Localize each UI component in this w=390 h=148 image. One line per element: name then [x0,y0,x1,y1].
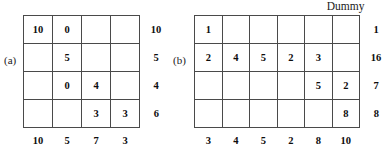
panel-a-caption: (a) [4,55,16,66]
tableau-cell[interactable] [111,16,140,44]
tableau-b: 112452316527883452810 [194,15,387,147]
tableau-cell[interactable]: 3 [305,44,333,72]
tableau-cell[interactable] [250,100,278,128]
tableau-row: 10010 [24,16,167,44]
tableau-cell[interactable]: 8 [332,100,360,128]
column-demand-label: 5 [250,128,278,148]
tableau-cell[interactable]: 4 [82,72,111,100]
tableau-row: 336 [24,100,167,128]
tableau-cell[interactable] [222,72,250,100]
tableau-cell[interactable]: 3 [111,100,140,128]
tableau-cell[interactable] [111,72,140,100]
tableau-cell[interactable]: 1 [195,16,223,44]
row-supply-label: 16 [360,44,387,72]
tableau-cell[interactable] [250,72,278,100]
tableau-cell[interactable] [53,100,82,128]
tableau-cell[interactable] [24,100,53,128]
tableau-b-body: 112452316527883452810 [195,16,387,148]
row-supply-label: 7 [360,72,387,100]
column-demand-label: 4 [222,128,250,148]
tableau-cell[interactable]: 2 [277,44,305,72]
tableau-cell[interactable]: 0 [53,72,82,100]
transportation-tableau-figure: (a) 100105504433610573 (b) Dummy 1124523… [0,0,390,147]
tableau-cell[interactable]: 5 [53,44,82,72]
tableau-cell[interactable]: 5 [305,72,333,100]
tableau-cell[interactable]: 3 [82,100,111,128]
column-demand-label: 3 [111,128,140,148]
tableau-cell[interactable] [305,16,333,44]
tableau-cell[interactable] [195,72,223,100]
column-demand-label: 8 [305,128,333,148]
panel-b: (b) Dummy 112452316527883452810 [195,0,390,147]
tableau-cell[interactable] [277,72,305,100]
tableau-cell[interactable] [332,44,360,72]
tableau-row: 2452316 [195,44,387,72]
tableau-cell[interactable]: 0 [53,16,82,44]
tableau-cell[interactable] [277,100,305,128]
tableau-cell[interactable] [24,72,53,100]
tableau-cell[interactable] [277,16,305,44]
column-demand-label: 10 [24,128,53,148]
tableau-cell[interactable] [82,16,111,44]
row-supply-label: 5 [140,44,167,72]
tableau-cell[interactable] [250,16,278,44]
tableau-cell[interactable] [305,100,333,128]
dummy-column-header: Dummy [327,1,365,13]
tableau-cell[interactable] [222,100,250,128]
tableau-row: 11 [195,16,387,44]
tableau-row: 527 [195,72,387,100]
column-demand-label: 10 [332,128,360,148]
tableau-demand-row: 10573 [24,128,167,148]
column-demand-label: 3 [195,128,223,148]
tableau-row: 044 [24,72,167,100]
tableau-row: 55 [24,44,167,72]
tableau-cell[interactable] [195,100,223,128]
row-supply-label: 6 [140,100,167,128]
column-demand-label: 5 [53,128,82,148]
tableau-demand-row: 3452810 [195,128,387,148]
panel-a: (a) 100105504433610573 [0,0,195,147]
panel-b-caption: (b) [173,55,186,66]
tableau-cell[interactable] [82,44,111,72]
tableau-a: 100105504433610573 [23,15,167,147]
tableau-a-body: 100105504433610573 [24,16,167,148]
tableau-cell[interactable] [222,16,250,44]
row-supply-label: 1 [360,16,387,44]
tableau-cell[interactable]: 2 [332,72,360,100]
row-supply-label: 4 [140,72,167,100]
tableau-row: 88 [195,100,387,128]
tableau-cell[interactable] [111,44,140,72]
column-demand-label: 2 [277,128,305,148]
tableau-cell[interactable]: 2 [195,44,223,72]
tableau-cell[interactable]: 4 [222,44,250,72]
tableau-cell[interactable] [332,16,360,44]
demand-row-spacer [360,128,387,148]
demand-row-spacer [140,128,167,148]
column-demand-label: 7 [82,128,111,148]
tableau-cell[interactable]: 10 [24,16,53,44]
tableau-cell[interactable] [24,44,53,72]
row-supply-label: 10 [140,16,167,44]
row-supply-label: 8 [360,100,387,128]
tableau-cell[interactable]: 5 [250,44,278,72]
